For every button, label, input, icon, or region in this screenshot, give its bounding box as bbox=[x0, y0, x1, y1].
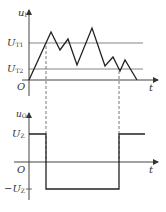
top-origin-label: O bbox=[17, 82, 25, 92]
bottom-graph bbox=[14, 113, 158, 200]
top-y-label-sub: I bbox=[24, 11, 26, 18]
bottom-y-axis-label: uO bbox=[16, 110, 27, 119]
top-graph bbox=[22, 10, 158, 96]
top-x-axis-label: t bbox=[149, 83, 153, 93]
top-y-axis-label: uI bbox=[18, 8, 27, 18]
uz-sub: Z bbox=[20, 132, 24, 139]
bottom-origin-label: O bbox=[17, 165, 25, 175]
ut1-label: UT1 bbox=[7, 38, 23, 48]
uz-label: UZ bbox=[12, 129, 25, 139]
neg-uz-label: −UZ bbox=[4, 184, 25, 194]
bottom-x-axis-label: t bbox=[149, 165, 153, 175]
neg-uz-sub: Z bbox=[21, 187, 25, 194]
ut1-sub: T1 bbox=[15, 41, 23, 48]
bottom-y-label-sub: O bbox=[22, 112, 27, 119]
ut2-sub: T2 bbox=[15, 67, 23, 74]
input-waveform bbox=[29, 28, 137, 80]
neg-uz-main: −U bbox=[4, 183, 21, 194]
comparator-waveform-diagram bbox=[0, 0, 166, 212]
ut2-label: UT2 bbox=[7, 64, 23, 74]
